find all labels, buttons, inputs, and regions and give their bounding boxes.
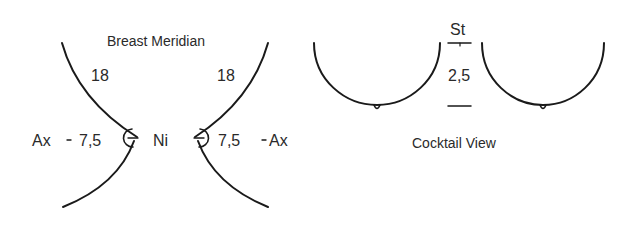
left-lateral-measure: 7,5 [79,133,101,149]
right-axilla-label: Ax [269,133,288,149]
cocktail-left-cup-curve [314,43,440,105]
right-upper-measure: 18 [217,68,235,84]
left-upper-measure: 18 [91,68,109,84]
left-axilla-label: Ax [32,133,51,149]
right-breast-upper-curve [195,43,268,137]
cocktail-view-title: Cocktail View [412,136,496,150]
breast-meridian-title: Breast Meridian [107,34,205,48]
right-breast-lower-curve [198,141,268,207]
nipple-center-label: Ni [153,133,168,149]
right-lateral-measure: 7,5 [218,133,240,149]
cocktail-right-cup-curve [482,43,604,105]
left-breast-upper-curve [62,43,137,137]
sternum-label: St [450,22,465,38]
intermammary-measure: 2,5 [448,68,470,84]
diagram-canvas [0,0,637,239]
left-breast-lower-curve [63,141,134,207]
